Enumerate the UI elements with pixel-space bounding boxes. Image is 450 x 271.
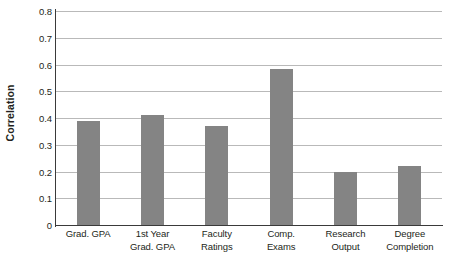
gridline bbox=[56, 172, 442, 173]
x-tick-label-line: 1st Year bbox=[136, 228, 170, 239]
gridline bbox=[56, 145, 442, 146]
y-tick-label: 0.8 bbox=[20, 6, 52, 17]
gridline bbox=[56, 118, 442, 119]
bar bbox=[270, 69, 293, 225]
x-tick-label-line: Research bbox=[326, 228, 366, 239]
gridline bbox=[56, 198, 442, 199]
x-axis-category-labels: Grad. GPA1st YearGrad. GPAFacultyRatings… bbox=[56, 228, 442, 271]
x-tick-label-line: Grad. GPA bbox=[66, 228, 111, 239]
x-tick-label-line: Completion bbox=[370, 241, 450, 254]
x-tick-label-line: Faculty bbox=[202, 228, 232, 239]
x-tick-label: DegreeCompletion bbox=[370, 228, 450, 253]
plot-area bbox=[56, 11, 442, 225]
x-tick-label-line: Comp. bbox=[267, 228, 294, 239]
bar bbox=[77, 121, 100, 225]
x-tick-label-line: Degree bbox=[395, 228, 426, 239]
gridline bbox=[56, 11, 442, 12]
bar bbox=[141, 115, 164, 225]
y-axis-tick-labels: 0.80.70.60.50.40.30.20.10 bbox=[16, 11, 52, 225]
y-axis-title-text: Correlation bbox=[4, 84, 16, 141]
gridline bbox=[56, 38, 442, 39]
bar bbox=[205, 126, 228, 225]
y-tick-label: 0.2 bbox=[20, 166, 52, 177]
bar-chart: Correlation 0.80.70.60.50.40.30.20.10 Gr… bbox=[0, 0, 450, 271]
gridline bbox=[56, 65, 442, 66]
y-tick-label: 0.7 bbox=[20, 32, 52, 43]
bar bbox=[334, 172, 357, 226]
y-tick-label: 0.3 bbox=[20, 139, 52, 150]
y-tick-label: 0.1 bbox=[20, 193, 52, 204]
y-tick-label: 0.4 bbox=[20, 113, 52, 124]
y-tick-label: 0.6 bbox=[20, 59, 52, 70]
gridline bbox=[56, 91, 442, 92]
bar bbox=[398, 166, 421, 225]
y-tick-label: 0.5 bbox=[20, 86, 52, 97]
